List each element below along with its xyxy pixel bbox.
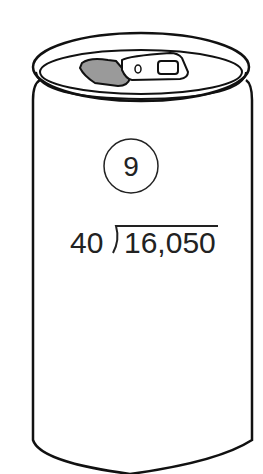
pull-tab-rivet bbox=[135, 65, 141, 73]
dividend: 16,050 bbox=[124, 226, 216, 260]
can-body-outline bbox=[33, 80, 252, 474]
divisor: 40 bbox=[70, 226, 103, 260]
problem-number: 9 bbox=[103, 150, 159, 184]
pull-tab-hole bbox=[158, 61, 178, 74]
